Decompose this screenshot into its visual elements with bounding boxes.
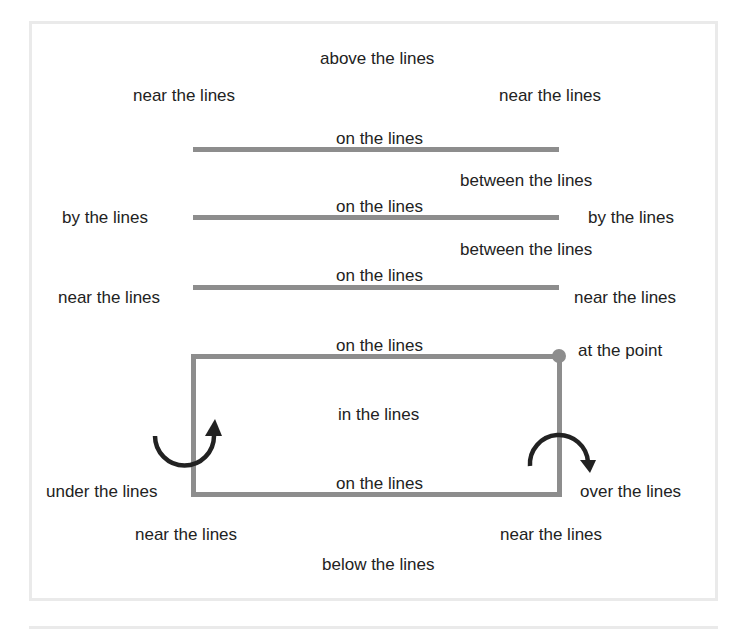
over-arrow-icon: [530, 435, 596, 473]
point-dot: [552, 349, 566, 363]
diagram-graphics: [0, 0, 754, 634]
under-arrow-icon: [155, 419, 222, 466]
